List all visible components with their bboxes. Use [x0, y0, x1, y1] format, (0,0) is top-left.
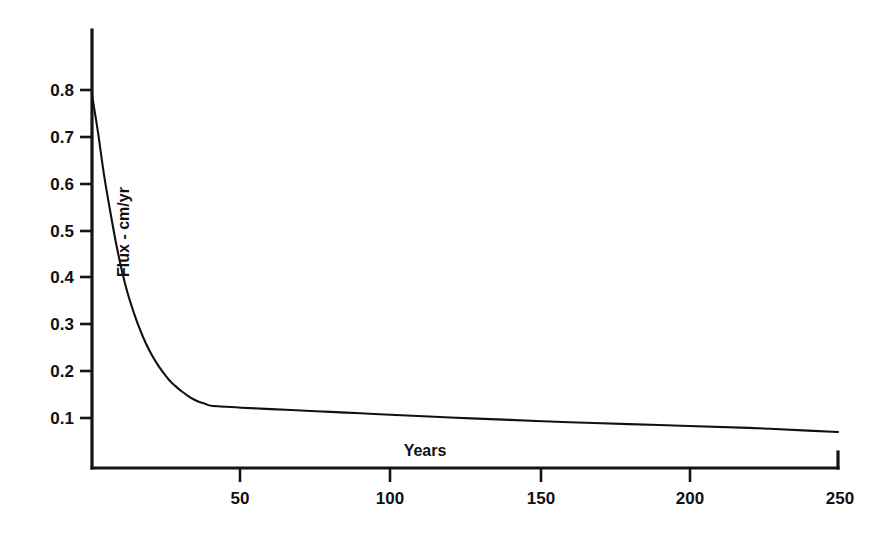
flux-decay-line-chart: 0.8 0.7 0.6 0.5 0.4 0.3 0.2 0.1 50 100 1…: [0, 0, 894, 545]
x-tick-label-250: 250: [826, 489, 854, 508]
x-tick-label-200: 200: [676, 489, 704, 508]
x-axis-tick-labels: 50 100 150 200 250: [231, 489, 855, 508]
y-tick-label-0.8: 0.8: [50, 81, 74, 100]
y-tick-label-0.5: 0.5: [50, 222, 74, 241]
x-tick-label-100: 100: [376, 489, 404, 508]
x-axis-title: Years: [404, 442, 447, 459]
chart-figure: 0.8 0.7 0.6 0.5 0.4 0.3 0.2 0.1 50 100 1…: [0, 0, 894, 545]
x-axis-ticks: [240, 468, 690, 482]
y-axis-ticks: [80, 90, 92, 418]
y-axis-tick-labels: 0.8 0.7 0.6 0.5 0.4 0.3 0.2 0.1: [50, 81, 74, 428]
y-tick-label-0.3: 0.3: [50, 315, 74, 334]
flux-curve: [92, 95, 838, 432]
y-tick-label-0.1: 0.1: [50, 409, 74, 428]
y-tick-label-0.4: 0.4: [50, 268, 74, 287]
x-tick-label-50: 50: [231, 489, 250, 508]
y-tick-label-0.7: 0.7: [50, 128, 74, 147]
x-tick-label-150: 150: [527, 489, 555, 508]
y-axis-title: Flux - cm/yr: [115, 187, 132, 277]
y-tick-label-0.6: 0.6: [50, 175, 74, 194]
y-tick-label-0.2: 0.2: [50, 362, 74, 381]
